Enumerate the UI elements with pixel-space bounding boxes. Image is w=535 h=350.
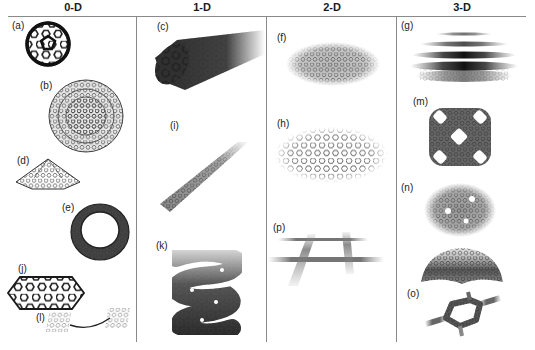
graphene-flake-figure bbox=[8, 273, 84, 313]
nanoribbon-figure bbox=[160, 142, 250, 212]
panel-label-l: (l) bbox=[36, 312, 45, 323]
dome-sheet-figure bbox=[419, 246, 505, 286]
fullerene-cage-figure bbox=[24, 20, 72, 68]
hexagonal-pillared-network-figure bbox=[424, 292, 502, 338]
onion-sphere-figure bbox=[47, 78, 125, 154]
linked-flakes-figure bbox=[50, 308, 132, 334]
column-title-1d: 1-D bbox=[137, 1, 267, 13]
porous-graphene-sheet-figure bbox=[274, 127, 388, 183]
column-title-0d: 0-D bbox=[8, 1, 138, 13]
schwarzite-framework-figure bbox=[427, 106, 493, 168]
graphene-sheet-figure bbox=[286, 42, 380, 86]
nanotorus-figure bbox=[69, 202, 131, 262]
column-title-3d: 3-D bbox=[397, 1, 527, 13]
nanotube-figure bbox=[155, 30, 265, 94]
nanocone-figure bbox=[14, 158, 82, 190]
defective-sheet-figure bbox=[424, 183, 496, 237]
column-title-2d: 2-D bbox=[267, 1, 397, 13]
panel-label-m: (m) bbox=[413, 96, 428, 107]
panel-label-i: (i) bbox=[170, 120, 179, 131]
column-divider-2 bbox=[266, 16, 267, 342]
header-rule bbox=[8, 16, 526, 17]
column-divider-1 bbox=[136, 16, 137, 342]
ribbon-network-figure bbox=[268, 232, 384, 287]
stacked-graphite-figure bbox=[408, 30, 520, 84]
helical-coil-figure bbox=[172, 250, 242, 335]
panel-label-n: (n) bbox=[401, 182, 413, 193]
column-divider-3 bbox=[396, 16, 397, 342]
panel-label-k: (k) bbox=[156, 240, 168, 251]
panel-label-a: (a) bbox=[12, 20, 24, 31]
panel-label-o: (o) bbox=[407, 288, 419, 299]
